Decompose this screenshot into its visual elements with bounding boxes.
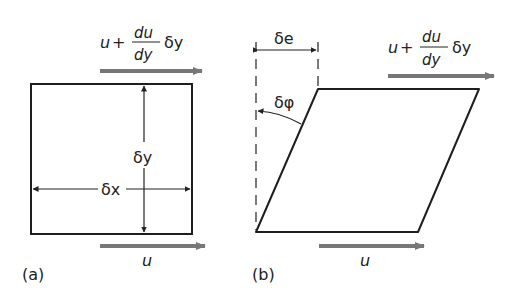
dx-label: δx xyxy=(101,180,120,199)
svg-text:du: du xyxy=(422,28,441,46)
svg-text:+: + xyxy=(112,33,125,52)
svg-text:dy: dy xyxy=(134,46,154,64)
square-element xyxy=(31,84,192,234)
panel-b-label: (b) xyxy=(252,265,275,284)
top-velocity-label-b: u + du dy δy xyxy=(388,28,471,69)
de-label: δe xyxy=(274,29,294,48)
dphi-angle-arc xyxy=(258,111,301,124)
svg-text:u: u xyxy=(100,33,110,52)
dy-label: δy xyxy=(133,148,152,167)
svg-text:δy: δy xyxy=(452,38,471,57)
panel-a-label: (a) xyxy=(22,265,44,284)
bottom-velocity-label-b: u xyxy=(360,251,370,270)
svg-text:u: u xyxy=(388,38,398,57)
panel-a: u + du dy δy δy δx u (a) xyxy=(22,24,205,284)
svg-text:du: du xyxy=(134,24,153,42)
dphi-label: δφ xyxy=(274,93,294,112)
top-velocity-label-a: u + du dy δy xyxy=(100,24,183,64)
svg-text:δy: δy xyxy=(164,33,183,52)
panel-b: δe δφ u + du dy δy u (b) xyxy=(252,28,494,284)
fluid-element-shear-diagram: u + du dy δy δy δx u (a) δe xyxy=(0,0,513,299)
svg-text:+: + xyxy=(400,38,413,57)
svg-text:dy: dy xyxy=(422,51,442,69)
bottom-velocity-label-a: u xyxy=(142,251,152,270)
